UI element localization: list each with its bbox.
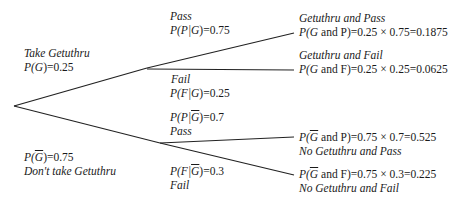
branch-g-pass [147, 33, 294, 68]
g-fail-label: Fail [171, 73, 190, 86]
ng-fail-label: Fail [170, 179, 189, 192]
outcome-3-var: G [310, 131, 318, 143]
not-take-prob-suffix: )=0.75 [43, 151, 73, 163]
ng-fail-prob: P(F|G)=0.3 [170, 165, 224, 178]
take-prob-prefix: P( [24, 61, 35, 73]
take-prob-var: G [35, 61, 43, 73]
take-label: Take Getuthru [24, 47, 90, 60]
outcome-1-var: G [310, 26, 318, 38]
g-pass-prob-suffix: )=0.75 [199, 24, 229, 36]
outcome-2-label: Getuthru and Fail [299, 49, 383, 62]
outcome-2-formula: P(G and F)=0.25 × 0.25=0.0625 [299, 63, 448, 76]
not-take-prob-prefix: P( [24, 151, 35, 163]
g-pass-prob: P(P|G)=0.75 [170, 24, 230, 37]
ng-pass-prob: P(P|G)=0.7 [170, 111, 224, 124]
outcome-3-prefix: P( [299, 131, 310, 143]
take-prob: P(G)=0.25 [24, 61, 74, 74]
outcome-3-suffix: and P)=0.75 × 0.7=0.525 [318, 131, 436, 143]
outcome-3-label: No Getuthru and Pass [299, 145, 402, 158]
ng-fail-prob-prefix: P(F| [170, 165, 191, 177]
branch-g-fail [147, 69, 294, 70]
not-take-prob: P(G)=0.75 [24, 151, 74, 164]
branch-not-take [14, 106, 160, 143]
outcome-2-var: G [310, 63, 318, 75]
not-take-prob-var: G [35, 151, 43, 163]
outcome-1-label: Getuthru and Pass [299, 12, 385, 25]
ng-pass-label: Pass [170, 125, 192, 138]
outcome-1-formula: P(G and P)=0.25 × 0.75=0.1875 [299, 26, 448, 39]
g-fail-prob: P(F|G)=0.25 [170, 87, 230, 100]
outcome-1-suffix: and P)=0.25 × 0.75=0.1875 [318, 26, 448, 38]
outcome-2-prefix: P( [299, 63, 310, 75]
ng-pass-prob-suffix: )=0.7 [199, 111, 224, 123]
outcome-2-suffix: and F)=0.25 × 0.25=0.0625 [318, 63, 448, 75]
outcome-4-prefix: P( [299, 168, 310, 180]
g-fail-prob-prefix: P(F| [170, 87, 191, 99]
outcome-1-prefix: P( [299, 26, 310, 38]
outcome-4-var: G [310, 168, 318, 180]
g-pass-prob-prefix: P(P| [170, 24, 191, 36]
outcome-4-formula: P(G and F)=0.75 × 0.3=0.225 [299, 168, 436, 181]
take-prob-suffix: )=0.25 [43, 61, 73, 73]
outcome-3-formula: P(G and P)=0.75 × 0.7=0.525 [299, 131, 436, 144]
g-fail-prob-suffix: )=0.25 [199, 87, 229, 99]
ng-pass-prob-prefix: P(P| [170, 111, 191, 123]
outcome-4-label: No Getuthru and Fail [299, 182, 399, 195]
g-pass-label: Pass [170, 10, 192, 23]
ng-fail-prob-suffix: )=0.3 [199, 165, 224, 177]
not-take-label: Don't take Getuthru [24, 165, 116, 178]
outcome-4-suffix: and F)=0.75 × 0.3=0.225 [318, 168, 436, 180]
